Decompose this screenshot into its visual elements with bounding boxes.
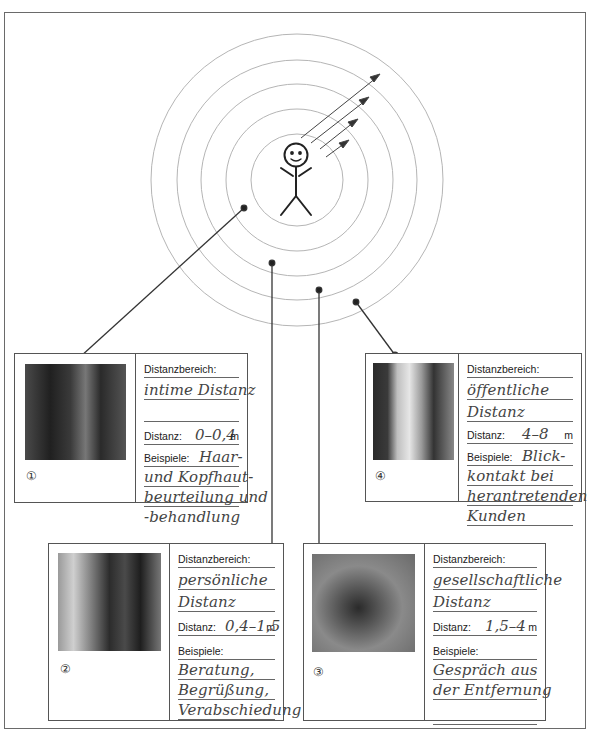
distance-zone-value: öffentliche [467, 381, 549, 399]
hairdresser-scalp-treatment-photo [25, 364, 126, 460]
card-number: ① [26, 469, 37, 483]
distance-card-personal: ② Distanzbereich: persönliche Distanz Di… [48, 543, 284, 721]
distance-card-intimate: ① Distanzbereich: intime Distanz Distanz… [14, 353, 248, 503]
people-in-lawn-chairs-photo [312, 554, 415, 652]
card-number: ④ [375, 469, 386, 483]
stick-figure-icon [281, 144, 311, 216]
distance-zone-value: gesellschaftliche [433, 571, 562, 589]
hairdresser-consultation-photo [58, 553, 161, 651]
distance-zone-value: persönliche [178, 571, 268, 589]
distance-value: 1,5–4 [485, 617, 526, 635]
distance-card-social: ③ Distanzbereich: gesellschaftliche Dist… [303, 543, 546, 721]
distance-zone-value: intime Distanz [144, 381, 256, 399]
distance-value: 4–8 [522, 425, 549, 443]
card-number: ② [60, 662, 71, 676]
distance-card-public: ④ Distanzbereich: öffentliche Distanz Di… [365, 353, 582, 502]
card-number: ③ [313, 665, 324, 679]
salon-greeting-from-afar-photo [373, 363, 454, 460]
